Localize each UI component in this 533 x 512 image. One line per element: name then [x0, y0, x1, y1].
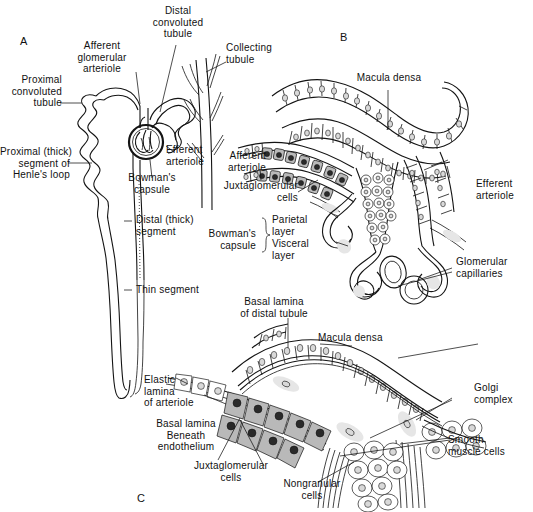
label-glomerular-capillaries: Glomerular capillaries [456, 256, 533, 279]
label-macula-densa-c: Macula densa [318, 332, 402, 344]
figure-canvas: A B C Afferent glomerular arteriole Dist… [0, 0, 533, 512]
label-parietal-layer: Parietal layer [272, 214, 324, 237]
label-smooth-muscle-cells: Smooth muscle cells [448, 434, 532, 457]
label-nongranular-cells: Nongranular cells [272, 478, 352, 501]
label-golgi-complex: Golgi complex [474, 382, 528, 405]
label-basal-lamina-of-distal-tubule: Basal lamina of distal tubule [228, 296, 320, 319]
label-juxtaglomerular-cells-c: Juxtaglomerular cells [180, 460, 282, 483]
label-elastic-lamina-of-arteriole: Elastic lamina of arteriole [144, 374, 218, 409]
label-efferent-arteriole-b: Efferent arteriole [476, 178, 532, 201]
label-basal-lamina-beneath-endothelium: Basal lamina Beneath endothelium [140, 418, 232, 453]
label-visceral-layer: Visceral layer [272, 238, 324, 261]
